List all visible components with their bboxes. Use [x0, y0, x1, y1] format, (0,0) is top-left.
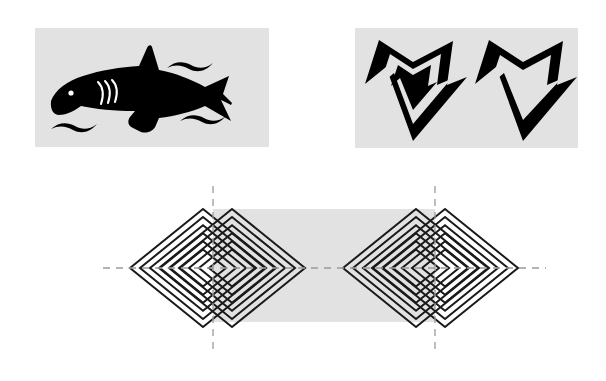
shark-illustration	[35, 28, 269, 147]
shark-silhouette-panel	[35, 28, 269, 147]
gray-band	[213, 209, 435, 322]
shark-eye-dot	[68, 90, 73, 95]
stars-illustration	[355, 28, 578, 148]
stars-panel	[355, 28, 578, 148]
nested-diamonds-svg	[0, 175, 606, 375]
nested-diamonds-diagram	[0, 175, 606, 375]
page-canvas	[0, 0, 606, 381]
